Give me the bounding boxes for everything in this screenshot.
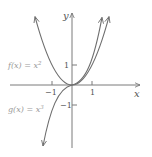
label-f: f(x) = x2 <box>7 60 42 70</box>
x-tick-label-pos1: 1 <box>90 88 95 97</box>
graph-canvas: y x −1 1 1 −1 f(x) = x2 g(x) = x3 <box>0 0 152 157</box>
y-tick-label-neg1: −1 <box>60 101 72 110</box>
label-g: g(x) = x3 <box>8 104 44 114</box>
y-axis-label: y <box>62 10 69 21</box>
x-axis-label: x <box>134 88 140 99</box>
y-tick-label-pos1: 1 <box>64 61 69 70</box>
x-tick-label-neg1: −1 <box>45 88 57 97</box>
